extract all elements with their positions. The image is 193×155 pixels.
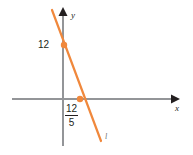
graph-canvas <box>0 0 193 155</box>
coordinate-plane-figure: 12 12 5 y x l <box>0 0 193 155</box>
line-label: l <box>105 133 107 141</box>
fraction-numerator: 12 <box>65 104 78 115</box>
point-x-intercept <box>77 96 83 102</box>
fraction-bar <box>65 115 78 116</box>
fraction-denominator: 5 <box>65 117 78 128</box>
y-intercept-label: 12 <box>38 40 49 50</box>
point-y-intercept <box>61 42 67 48</box>
x-axis <box>12 95 180 104</box>
y-axis-label: y <box>71 11 75 20</box>
x-axis-label: x <box>175 104 179 113</box>
y-axis-arrowhead-icon <box>59 7 68 16</box>
x-intercept-fraction-label: 12 5 <box>65 104 78 128</box>
